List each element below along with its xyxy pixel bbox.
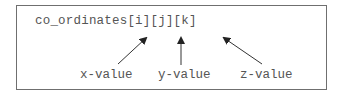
label-z-value: z-value <box>240 68 293 82</box>
arrow-z <box>224 38 262 64</box>
arrow-x <box>118 38 146 64</box>
label-y-value: y-value <box>158 68 211 82</box>
label-x-value: x-value <box>80 68 133 82</box>
